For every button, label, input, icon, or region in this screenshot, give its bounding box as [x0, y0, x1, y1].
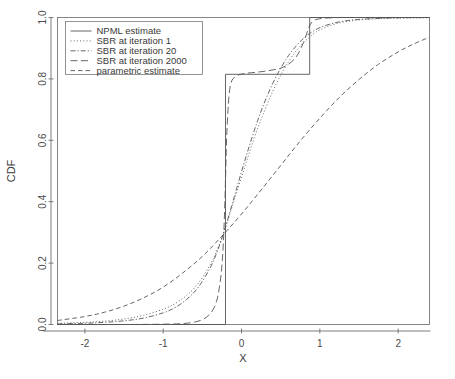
x-axis-ticks: -2-1012 — [44, 329, 431, 349]
y-tick-label: 0.4 — [37, 194, 48, 208]
x-tick-label: 1 — [317, 338, 323, 349]
y-tick-label: 1.0 — [37, 10, 48, 24]
x-tick-label: 0 — [239, 338, 245, 349]
cdf-plot: -2-1012 0.00.20.40.60.81.0 X CDF NPML es… — [0, 0, 455, 379]
y-tick-label: 0.2 — [37, 256, 48, 270]
x-axis-title: X — [239, 352, 247, 364]
y-tick-label: 0.6 — [37, 133, 48, 147]
y-tick-label: 0.8 — [37, 72, 48, 86]
y-axis-ticks: 0.00.20.40.60.81.0 — [37, 10, 53, 331]
y-axis-title: CDF — [5, 159, 17, 182]
y-tick-label: 0.0 — [37, 317, 48, 331]
x-tick-label: 2 — [395, 338, 401, 349]
x-tick-label: -1 — [159, 338, 168, 349]
series-line-4 — [58, 37, 430, 320]
chart-figure: -2-1012 0.00.20.40.60.81.0 X CDF NPML es… — [0, 0, 455, 379]
legend-label-4: parametric estimate — [97, 65, 180, 76]
chart-legend: NPML estimateSBR at iteration 1SBR at it… — [66, 22, 203, 76]
x-tick-label: -2 — [80, 338, 89, 349]
